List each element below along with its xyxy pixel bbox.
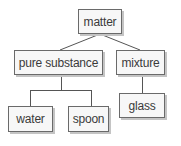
node-matter-label: matter (84, 15, 117, 29)
edge-matter-pure-substance (60, 34, 100, 50)
node-glass-label: glass (128, 99, 155, 113)
node-mixture: mixture (116, 50, 165, 75)
node-water-label: water (16, 112, 44, 126)
node-pure-substance: pure substance (14, 50, 103, 75)
node-spoon-label: spoon (73, 112, 105, 126)
node-matter: matter (78, 9, 122, 34)
node-mixture-label: mixture (122, 56, 160, 70)
node-glass: glass (119, 93, 165, 118)
node-water: water (8, 106, 53, 132)
node-pure-substance-label: pure substance (19, 56, 98, 70)
matter-classification-diagram: matter pure substance mixture water spoo… (0, 0, 181, 146)
edge-matter-mixture (100, 34, 140, 50)
node-spoon: spoon (68, 106, 109, 132)
